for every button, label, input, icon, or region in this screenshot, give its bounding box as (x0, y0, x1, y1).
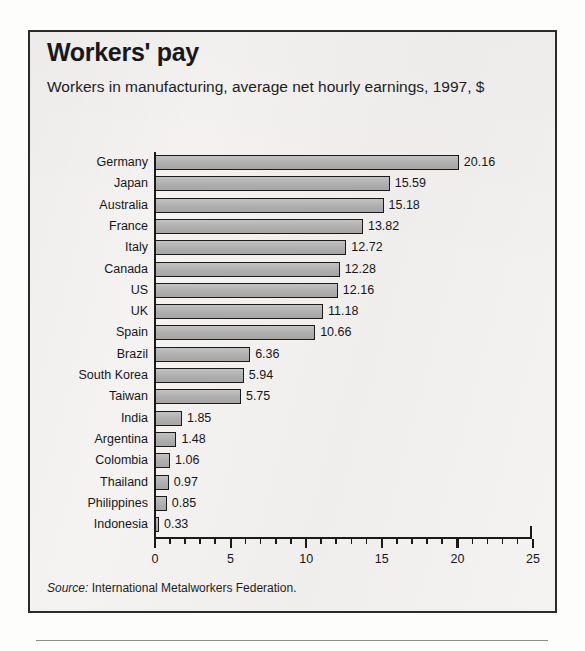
category-label: US (38, 280, 148, 301)
bar-value-label: 0.97 (174, 472, 198, 493)
category-label: South Korea (38, 365, 148, 386)
category-label: Indonesia (38, 514, 148, 535)
bar (154, 389, 241, 404)
bar-row: India1.85 (30, 408, 559, 429)
x-axis-minor-tick (441, 539, 443, 544)
category-label: Brazil (38, 344, 148, 365)
bar-value-label: 0.33 (164, 514, 188, 535)
category-label: Italy (38, 237, 148, 258)
bar (154, 198, 384, 213)
x-axis-minor-tick (335, 539, 337, 544)
x-axis-minor-tick (275, 539, 277, 544)
bar-value-label: 0.85 (172, 493, 196, 514)
figure-frame: Workers' pay Workers in manufacturing, a… (28, 30, 557, 613)
x-axis-minor-tick (260, 539, 262, 544)
bar-row: Canada12.28 (30, 259, 559, 280)
bar-value-label: 12.16 (343, 280, 374, 301)
bar-value-label: 1.06 (175, 450, 199, 471)
page-bottom-rule (36, 640, 548, 641)
bar-value-label: 15.59 (395, 173, 426, 194)
x-axis-tick-label: 10 (299, 552, 313, 566)
x-axis-minor-tick (487, 539, 489, 544)
category-label: Thailand (38, 472, 148, 493)
bar-row: Brazil6.36 (30, 344, 559, 365)
x-axis-minor-tick (472, 539, 474, 544)
bar-value-label: 10.66 (320, 322, 351, 343)
page-root: Workers' pay Workers in manufacturing, a… (0, 0, 585, 651)
x-axis-minor-tick (290, 539, 292, 544)
x-axis-tick-label: 5 (227, 552, 234, 566)
x-axis-right-endcap (530, 526, 532, 537)
x-axis-minor-tick (426, 539, 428, 544)
bar (154, 283, 338, 298)
x-axis-major-tick (456, 539, 458, 548)
x-axis-minor-tick (351, 539, 353, 544)
category-label: Canada (38, 259, 148, 280)
bar-value-label: 5.75 (246, 386, 270, 407)
bar-row: Japan15.59 (30, 173, 559, 194)
bar (154, 432, 176, 447)
bar-value-label: 12.28 (345, 259, 376, 280)
category-label: Argentina (38, 429, 148, 450)
x-axis-tick-label: 20 (450, 552, 464, 566)
bar-value-label: 15.18 (389, 195, 420, 216)
bar-value-label: 6.36 (255, 344, 279, 365)
source-text: International Metalworkers Federation. (92, 581, 297, 595)
x-axis-minor-tick (184, 539, 186, 544)
x-axis-minor-tick (396, 539, 398, 544)
category-label: France (38, 216, 148, 237)
category-label: UK (38, 301, 148, 322)
bar-row: Philippines0.85 (30, 493, 559, 514)
bar-row: Italy12.72 (30, 237, 559, 258)
x-axis-minor-tick (517, 539, 519, 544)
x-axis-minor-tick (320, 539, 322, 544)
x-axis-minor-tick (169, 539, 171, 544)
category-label: Australia (38, 195, 148, 216)
bar-value-label: 20.16 (464, 152, 495, 173)
bar-row: UK11.18 (30, 301, 559, 322)
x-axis-major-tick (305, 539, 307, 548)
bar-value-label: 5.94 (249, 365, 273, 386)
bar (154, 453, 170, 468)
bar (154, 368, 244, 383)
bar-row: Argentina1.48 (30, 429, 559, 450)
category-label: India (38, 408, 148, 429)
bar-row: Taiwan5.75 (30, 386, 559, 407)
bar (154, 347, 250, 362)
bar-row: Australia15.18 (30, 195, 559, 216)
y-axis-line (154, 152, 156, 537)
source-prefix: Source: (47, 581, 88, 595)
x-axis-minor-tick (502, 539, 504, 544)
bar (154, 262, 340, 277)
category-label: Japan (38, 173, 148, 194)
source-note: Source: International Metalworkers Feder… (47, 581, 296, 595)
bar (154, 176, 390, 191)
bar (154, 411, 182, 426)
category-label: Colombia (38, 450, 148, 471)
x-axis-line (154, 537, 532, 539)
category-label: Spain (38, 322, 148, 343)
bar-row: Thailand0.97 (30, 472, 559, 493)
bar-row: South Korea5.94 (30, 365, 559, 386)
bar-chart-plot-area: Germany20.16Japan15.59Australia15.18Fran… (30, 32, 559, 615)
bar-row: Indonesia0.33 (30, 514, 559, 535)
bar-row: Germany20.16 (30, 152, 559, 173)
bar-row: France13.82 (30, 216, 559, 237)
category-label: Taiwan (38, 386, 148, 407)
x-axis-major-tick (230, 539, 232, 548)
bar-row: Colombia1.06 (30, 450, 559, 471)
x-axis-tick-label: 15 (375, 552, 389, 566)
x-axis-minor-tick (245, 539, 247, 544)
bar-row: Spain10.66 (30, 322, 559, 343)
bar-value-label: 11.18 (328, 301, 358, 322)
category-label: Germany (38, 152, 148, 173)
x-axis-major-tick (532, 539, 534, 548)
x-axis-minor-tick (214, 539, 216, 544)
x-axis-major-tick (154, 539, 156, 548)
bar (154, 240, 346, 255)
bar (154, 155, 459, 170)
x-axis-tick-label: 25 (526, 552, 540, 566)
category-label: Philippines (38, 493, 148, 514)
x-axis-minor-tick (366, 539, 368, 544)
x-axis-minor-tick (411, 539, 413, 544)
